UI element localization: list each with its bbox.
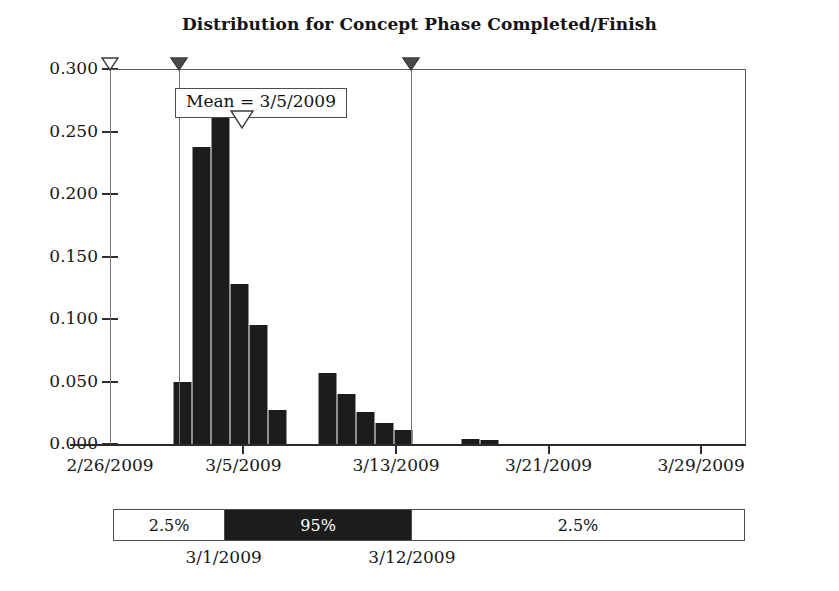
y-axis-label: 0.100 [36,308,98,328]
distribution-chart: Distribution for Concept Phase Completed… [0,0,839,591]
percentile-segment: 2.5% [114,510,224,540]
histogram-bar [192,147,211,445]
x-axis-tick [242,444,244,454]
x-axis-label: 3/29/2009 [658,455,745,475]
histogram-bar [249,325,268,444]
percentile-bar: 2.5%95%2.5% [113,509,745,541]
delimiter-line[interactable] [110,69,111,444]
histogram-bar [173,382,192,445]
percentile-segment: 2.5% [412,510,744,540]
histogram-bar [211,109,230,444]
x-axis-label: 3/21/2009 [505,455,592,475]
delimiter-marker-filled-icon[interactable] [401,56,421,72]
delimiter-marker-filled-icon[interactable] [169,56,189,72]
histogram-bar [356,412,375,445]
chart-title: Distribution for Concept Phase Completed… [0,14,839,34]
percentile-segment: 95% [224,510,412,540]
x-axis-label: 3/13/2009 [352,455,439,475]
y-axis-label: 0.000 [36,433,98,453]
delimiter-line[interactable] [411,69,412,444]
histogram-bar [230,284,249,444]
x-axis-tick [700,444,702,454]
histogram-bar [318,373,337,444]
y-axis-label: 0.200 [36,183,98,203]
y-axis-label: 0.300 [36,58,98,78]
x-axis-tick [395,444,397,454]
delimiter-line[interactable] [179,69,180,444]
x-axis-baseline [70,444,746,446]
percentile-boundary-label: 3/1/2009 [185,547,261,567]
plot-frame-right [745,69,746,445]
percentile-boundary-label: 3/12/2009 [368,547,455,567]
delimiter-marker-hollow-icon[interactable] [100,56,120,72]
histogram-bar [337,394,356,444]
x-axis-tick [548,444,550,454]
x-axis-label: 2/26/2009 [66,455,153,475]
histogram-bar [268,410,287,444]
mean-marker-icon [229,110,255,130]
mean-callout-box: Mean = 3/5/2009 [175,88,347,118]
histogram-bar [375,423,394,444]
x-axis-label: 3/5/2009 [205,455,281,475]
y-axis-label: 0.250 [36,121,98,141]
plot-frame-top [110,69,746,70]
y-axis-label: 0.050 [36,371,98,391]
y-axis-label: 0.150 [36,246,98,266]
